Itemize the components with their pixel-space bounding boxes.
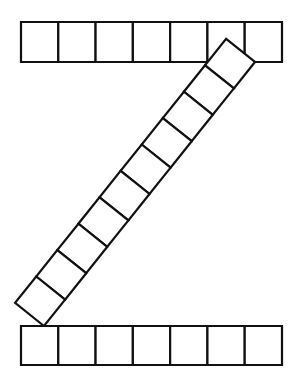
bottom-strip-cell: [207, 326, 244, 365]
top-strip-cell: [96, 22, 133, 62]
bottom-strip-cell: [133, 326, 170, 365]
figure-root: [0, 0, 295, 379]
top-strip-cell: [21, 22, 58, 62]
top-strip-cell: [58, 22, 95, 62]
top-strip-cell: [133, 22, 170, 62]
bottom-strip-cell: [58, 326, 95, 365]
top-strip-cell: [170, 22, 207, 62]
bottom-strip: [21, 326, 282, 365]
bottom-strip-cell: [21, 326, 58, 365]
bottom-strip-cell: [96, 326, 133, 365]
bottom-strip-cell: [245, 326, 282, 365]
z-shape-diagram: [0, 0, 295, 379]
top-strip-cell: [245, 22, 282, 62]
bottom-strip-cell: [170, 326, 207, 365]
